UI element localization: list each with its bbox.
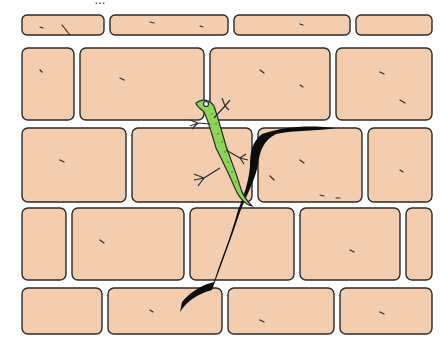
illustration	[0, 0, 446, 341]
brick-wall	[22, 15, 432, 334]
